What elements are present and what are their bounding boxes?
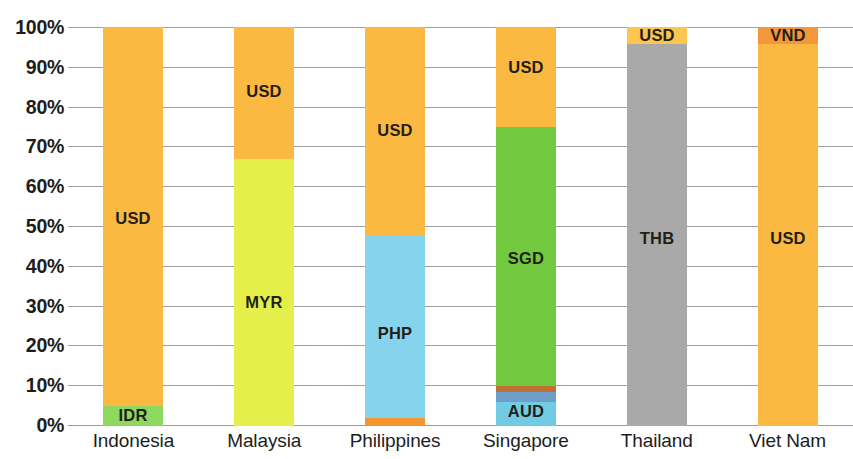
bar-stack: AUDSGDUSD bbox=[496, 27, 556, 425]
segment-label-wrap: USD bbox=[758, 230, 818, 247]
segment-label-wrap: PHP bbox=[365, 325, 425, 342]
segment-label-wrap: USD bbox=[234, 82, 294, 99]
x-axis-label-singapore: Singapore bbox=[461, 430, 592, 452]
bar-stack: THBUSD bbox=[627, 27, 687, 425]
segment-label-usd: USD bbox=[627, 27, 687, 44]
x-axis-label-indonesia: Indonesia bbox=[68, 430, 199, 452]
bar-stack: USDVND bbox=[758, 27, 818, 425]
segment-label-myr: MYR bbox=[234, 293, 294, 310]
x-axis-label-philippines: Philippines bbox=[330, 430, 461, 452]
segment-label-sgd: SGD bbox=[496, 250, 556, 267]
segment-label-usd: USD bbox=[758, 230, 818, 247]
bar-segment-unlabeled[interactable] bbox=[365, 417, 425, 426]
segment-label-wrap: USD bbox=[365, 122, 425, 139]
bar-segment-unlabeled[interactable] bbox=[496, 391, 556, 402]
bar-group-viet-nam[interactable]: USDVND bbox=[758, 27, 818, 425]
segment-label-wrap: THB bbox=[627, 230, 687, 247]
segment-label-php: PHP bbox=[365, 325, 425, 342]
plot-area: 100%90%80%70%60%50%40%30%20%10%0% IDRUSD… bbox=[0, 0, 853, 459]
bar-stack: MYRUSD bbox=[234, 27, 294, 425]
x-axis-label-thailand: Thailand bbox=[591, 430, 722, 452]
segment-label-wrap: SGD bbox=[496, 250, 556, 267]
bar-stack: PHPUSD bbox=[365, 27, 425, 425]
segment-label-idr: IDR bbox=[103, 407, 163, 424]
x-axis-label-viet-nam: Viet Nam bbox=[722, 430, 853, 452]
segment-label-wrap: USD bbox=[103, 210, 163, 227]
segment-label-thb: THB bbox=[627, 230, 687, 247]
segment-label-wrap: USD bbox=[627, 27, 687, 44]
bar-group-indonesia[interactable]: IDRUSD bbox=[103, 27, 163, 425]
bar-group-philippines[interactable]: PHPUSD bbox=[365, 27, 425, 425]
bar-stack: IDRUSD bbox=[103, 27, 163, 425]
segment-label-usd: USD bbox=[496, 59, 556, 76]
segment-label-vnd: VND bbox=[758, 27, 818, 44]
segment-label-wrap: USD bbox=[496, 59, 556, 76]
bar-segment-myr[interactable] bbox=[234, 158, 294, 425]
bars-layer: IDRUSDMYRUSDPHPUSDAUDSGDUSDTHBUSDUSDVND bbox=[0, 0, 853, 459]
bar-group-thailand[interactable]: THBUSD bbox=[627, 27, 687, 425]
segment-label-usd: USD bbox=[103, 210, 163, 227]
segment-label-wrap: AUD bbox=[496, 403, 556, 420]
bar-segment-usd[interactable] bbox=[496, 27, 556, 127]
bar-group-malaysia[interactable]: MYRUSD bbox=[234, 27, 294, 425]
segment-label-usd: USD bbox=[234, 82, 294, 99]
segment-label-wrap: IDR bbox=[103, 407, 163, 424]
segment-label-wrap: MYR bbox=[234, 293, 294, 310]
bar-segment-unlabeled[interactable] bbox=[496, 385, 556, 392]
bar-group-singapore[interactable]: AUDSGDUSD bbox=[496, 27, 556, 425]
segment-label-wrap: VND bbox=[758, 27, 818, 44]
segment-label-aud: AUD bbox=[496, 403, 556, 420]
segment-label-usd: USD bbox=[365, 122, 425, 139]
stacked-bar-chart: 100%90%80%70%60%50%40%30%20%10%0% IDRUSD… bbox=[0, 0, 853, 459]
x-axis-label-malaysia: Malaysia bbox=[199, 430, 330, 452]
